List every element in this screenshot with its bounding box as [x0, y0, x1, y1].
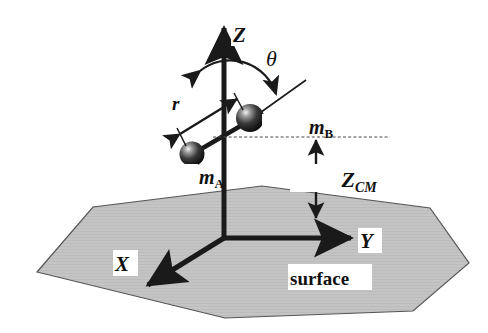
zcm-symbol: Z — [341, 167, 355, 192]
mass-b-label: mB — [264, 116, 368, 142]
theta-angle-group: θ — [200, 44, 286, 94]
r-dimension-arrow — [180, 99, 237, 134]
physics-diagram-figure: Z Y X θ — [0, 0, 488, 333]
bond-length-dimension-group: r — [170, 92, 243, 146]
r-tick-atom-b — [234, 93, 243, 110]
theta-label: θ — [266, 46, 277, 71]
surface-plane — [37, 186, 469, 318]
mass-b-symbol: m — [309, 116, 325, 138]
z-axis-label: Z — [232, 23, 246, 47]
y-axis-label: Y — [360, 229, 375, 253]
atom-mass-a — [180, 142, 205, 167]
atom-mass-b — [236, 104, 264, 132]
mass-a-subscript: A — [215, 176, 225, 191]
surface-label-group: surface — [288, 264, 372, 290]
mass-a-label-group: mA — [152, 164, 259, 192]
mass-b-subscript: B — [325, 126, 334, 141]
surface-label: surface — [290, 268, 349, 289]
zcm-subscript: CM — [355, 180, 377, 195]
x-axis-label: X — [114, 252, 130, 276]
mass-a-symbol: m — [199, 166, 215, 188]
mass-a-label: mA — [154, 166, 259, 192]
diagram-canvas: Z Y X θ — [0, 0, 488, 333]
surface-plane-group — [37, 186, 469, 318]
bond-length-label: r — [172, 93, 180, 114]
mass-b-label-group: mB — [262, 114, 368, 142]
